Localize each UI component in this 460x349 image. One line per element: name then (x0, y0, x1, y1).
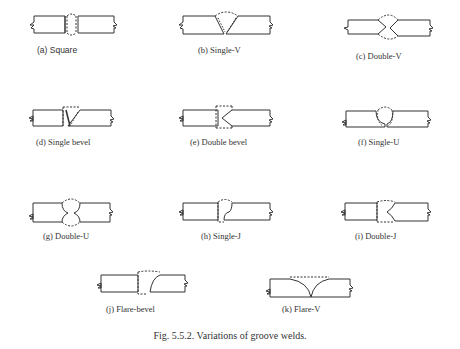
label-single-j: (h) Single-J (201, 231, 241, 241)
weld-diagram-square (30, 14, 117, 35)
label-square: (a) Square (37, 45, 77, 55)
label-single-u: (f) Single-U (358, 137, 399, 147)
label-flare-v: (k) Flare-V (282, 304, 320, 314)
weld-diagram-single-u (342, 107, 431, 127)
label-double-u: (g) Double-U (43, 231, 89, 241)
weld-diagram-double-bevel (179, 106, 273, 128)
label-double-j: (i) Double-J (355, 231, 396, 241)
figure-caption: Fig. 5.5.2. Variations of groove welds. (0, 330, 460, 341)
weld-diagram-double-u (29, 199, 113, 226)
label-double-bevel: (e) Double bevel (190, 137, 247, 147)
weld-diagram-double-j (341, 201, 431, 223)
weld-diagram-single-j (179, 200, 273, 223)
weld-diagram-single-bevel (29, 107, 114, 126)
weld-diagram-single-v (179, 12, 273, 34)
label-double-v: (c) Double-V (356, 51, 402, 61)
weld-diagram-flare-bevel (97, 271, 188, 294)
weld-diagram-double-v (344, 15, 433, 39)
weld-diagram-flare-v (266, 277, 353, 297)
label-single-bevel: (d) Single bevel (36, 137, 90, 147)
label-flare-bevel: (j) Flare-bevel (106, 304, 155, 314)
label-single-v: (b) Single-V (198, 45, 241, 55)
